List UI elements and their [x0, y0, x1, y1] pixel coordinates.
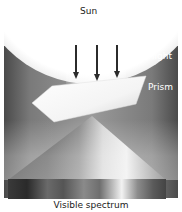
prism-label: Prism [148, 82, 173, 92]
spectrum-caption: Visible spectrum [0, 200, 182, 210]
visible-spectrum-bar [8, 179, 166, 199]
diagram-canvas [4, 0, 178, 198]
prism-shape [32, 76, 146, 122]
white-light-label: White light [123, 51, 172, 61]
sun-label: Sun [80, 6, 97, 16]
